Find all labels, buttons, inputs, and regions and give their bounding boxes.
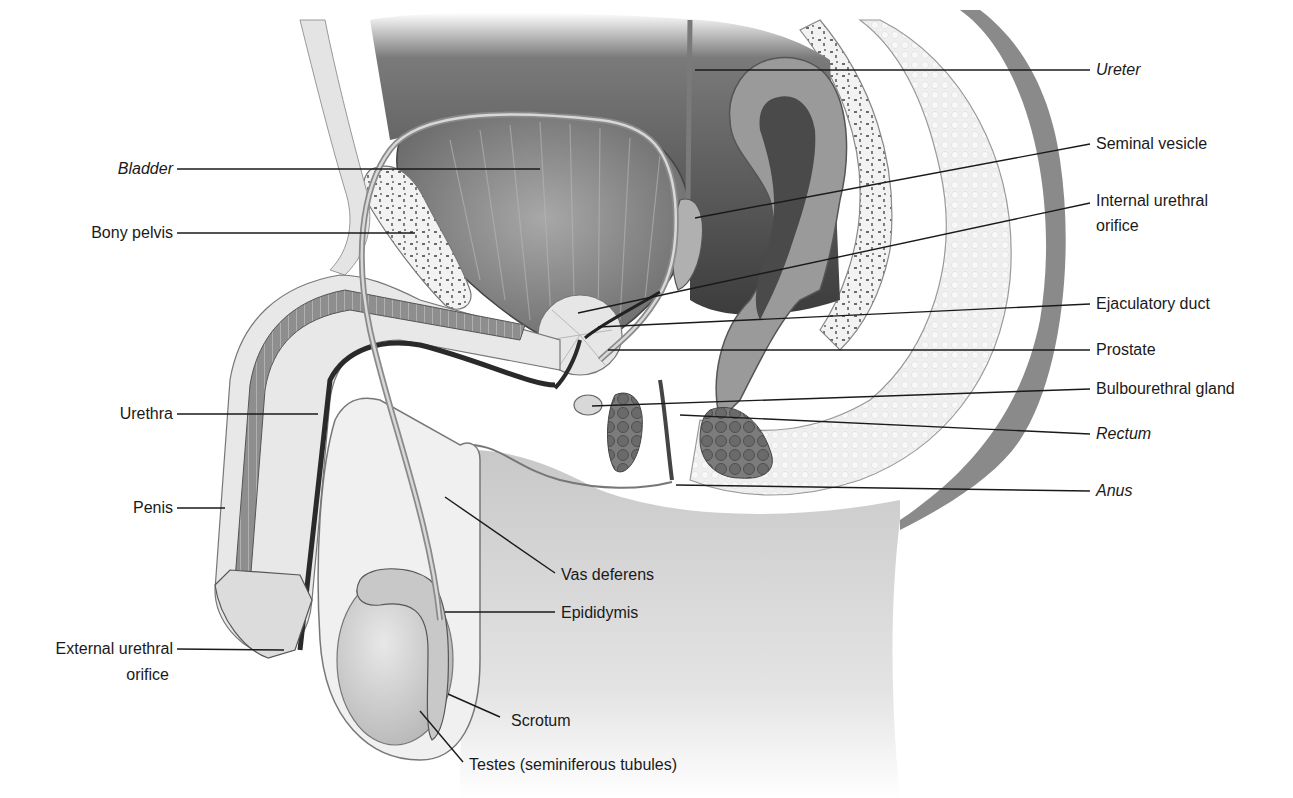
label-bony-pelvis: Bony pelvis xyxy=(20,223,173,243)
leader-external-urethral-orifice xyxy=(177,649,284,650)
label-penis: Penis xyxy=(20,498,173,518)
label-testes: Testes (seminiferous tubules) xyxy=(469,755,677,775)
label-seminal-vesicle: Seminal vesicle xyxy=(1096,134,1207,154)
bulbourethral-gland-organ xyxy=(574,395,602,415)
label-bulbourethral-gland: Bulbourethral gland xyxy=(1096,379,1235,399)
label-epididymis: Epididymis xyxy=(561,603,638,623)
label-prostate: Prostate xyxy=(1096,340,1156,360)
label-vas-deferens: Vas deferens xyxy=(561,565,654,585)
label-scrotum: Scrotum xyxy=(511,711,571,731)
label-ejaculatory-duct: Ejaculatory duct xyxy=(1096,294,1210,314)
label-external-urethral-orifice-line2: orifice xyxy=(0,665,169,685)
thigh-region xyxy=(460,450,900,798)
anal-canal xyxy=(660,380,672,480)
anatomy-illustration xyxy=(0,0,1293,798)
label-ureter: Ureter xyxy=(1096,60,1140,80)
label-external-urethral-orifice: External urethral xyxy=(0,639,173,659)
label-rectum: Rectum xyxy=(1096,424,1151,444)
label-bladder: Bladder xyxy=(60,159,173,179)
abdominal-wall xyxy=(300,20,370,275)
label-urethra: Urethra xyxy=(20,404,173,424)
label-internal-urethral-orifice: Internal urethral xyxy=(1096,191,1208,211)
anatomy-diagram: Bladder Bony pelvis Urethra Penis Extern… xyxy=(0,0,1293,798)
glans xyxy=(215,570,312,658)
label-anus: Anus xyxy=(1096,481,1132,501)
label-internal-urethral-orifice-line2: orifice xyxy=(1096,216,1139,236)
